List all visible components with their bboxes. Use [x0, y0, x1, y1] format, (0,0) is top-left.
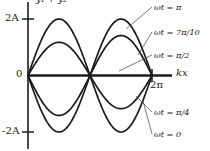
leader-wt-pi — [126, 7, 152, 29]
curve-label-wt-0: ωt = 0 — [154, 130, 181, 138]
series-axis-label: y₁ + y₂ — [36, 0, 67, 4]
x-tick-label-2pi: 2π — [150, 80, 163, 90]
curve-label-wt-pi4: ωt = π/4 — [154, 108, 189, 116]
x-axis-label: kx — [176, 68, 188, 78]
curve-label-wt-7pi10: ωt = 7π/10 — [154, 28, 200, 36]
standing-wave-figure: y₁ + y₂ 2A 0 -2A 2π kx ωt = π ωt = 7π/10… — [0, 0, 210, 151]
leader-lines — [119, 7, 152, 134]
y-tick-label-neg2A: -2A — [2, 126, 20, 136]
leader-wt-0 — [143, 101, 152, 134]
curve-label-wt-pi2: ωt = π/2 — [154, 51, 189, 59]
y-tick-label-0: 0 — [16, 69, 23, 79]
y-tick-label-2A: 2A — [5, 13, 19, 23]
axes — [22, 2, 172, 149]
curve-label-wt-pi: ωt = π — [154, 3, 181, 11]
